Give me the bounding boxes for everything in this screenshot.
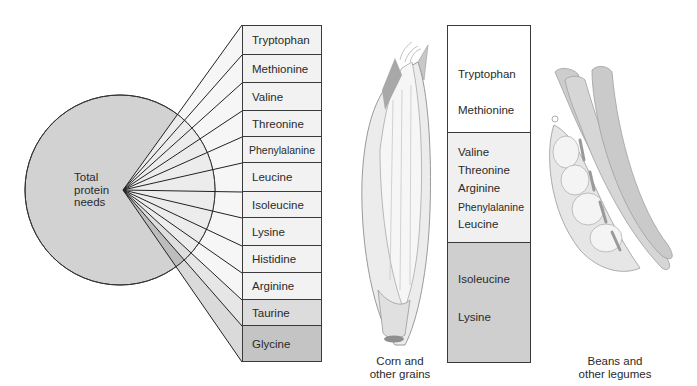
amino-label: Arginine — [252, 280, 294, 292]
amino-row-isoleucine: Isoleucine — [242, 192, 322, 218]
beans-caption: Beans and other legumes — [560, 355, 670, 381]
amino-label: Leucine — [252, 171, 292, 183]
table-item: Lysine — [458, 311, 491, 323]
amino-label: Methionine — [252, 63, 308, 75]
corn-caption-line: Corn and — [355, 355, 445, 368]
table-item: Tryptophan — [458, 68, 516, 80]
table-item: Valine — [458, 146, 489, 158]
beans-illustration — [550, 66, 673, 271]
amino-label: Tryptophan — [252, 34, 310, 46]
amino-row-histidine: Histidine — [242, 246, 322, 273]
amino-row-tryptophan: Tryptophan — [242, 25, 322, 55]
amino-label: Isoleucine — [252, 199, 304, 211]
amino-label: Histidine — [252, 253, 296, 265]
beans-caption-line: other legumes — [560, 368, 670, 381]
corn-caption: Corn and other grains — [355, 355, 445, 381]
amino-label: Glycine — [252, 338, 290, 350]
pie-label-line: protein — [74, 184, 109, 197]
table-item: Phenylalanine — [458, 201, 524, 213]
amino-row-phenylalanine: Phenylalanine — [242, 137, 322, 163]
amino-row-glycine: Glycine — [242, 326, 322, 362]
beans-caption-line: Beans and — [560, 355, 670, 368]
section-shared: Valine Threonine Arginine Phenylalanine … — [447, 133, 531, 243]
corn-caption-line: other grains — [355, 368, 445, 381]
corn-illustration — [362, 42, 431, 345]
amino-row-valine: Valine — [242, 83, 322, 111]
pie-label: Total protein needs — [74, 171, 109, 209]
amino-row-leucine: Leucine — [242, 163, 322, 192]
table-item: Leucine — [458, 218, 498, 230]
table-item: Isoleucine — [458, 273, 510, 285]
table-item: Arginine — [458, 182, 500, 194]
section-low-in-grains: Tryptophan Methionine — [447, 25, 531, 133]
pie-label-line: Total — [74, 171, 109, 184]
table-item: Threonine — [458, 164, 510, 176]
amino-row-arginine: Arginine — [242, 273, 322, 300]
amino-row-methionine: Methionine — [242, 55, 322, 83]
section-low-in-legumes: Isoleucine Lysine — [447, 243, 531, 363]
amino-label: Lysine — [252, 226, 285, 238]
amino-label: Phenylalanine — [249, 144, 315, 156]
table-item: Methionine — [458, 104, 514, 116]
amino-label: Valine — [252, 91, 283, 103]
amino-row-threonine: Threonine — [242, 111, 322, 137]
amino-row-lysine: Lysine — [242, 218, 322, 246]
amino-row-taurine: Taurine — [242, 300, 322, 326]
pie-label-line: needs — [74, 196, 109, 209]
amino-label: Taurine — [252, 307, 290, 319]
amino-label: Threonine — [252, 118, 304, 130]
